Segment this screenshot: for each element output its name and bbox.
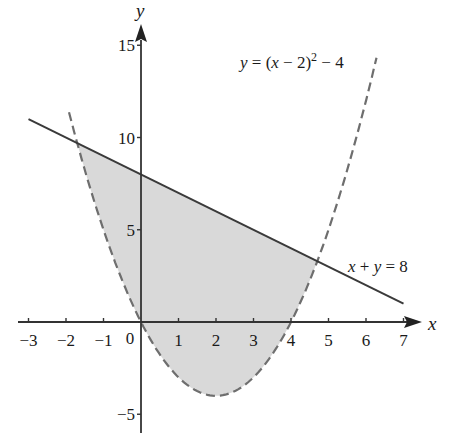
y-tick-label: 5 [127, 221, 136, 240]
chart-canvas: −3−2−112345670−551015 x y y = (x − 2)2 −… [0, 0, 449, 437]
x-tick-label: 7 [399, 331, 408, 350]
x-tick-label: 5 [324, 331, 333, 350]
shaded-region [77, 143, 317, 396]
x-tick-label: −2 [57, 331, 75, 350]
x-tick-label: −1 [94, 331, 112, 350]
x-axis-label: x [427, 313, 437, 334]
y-axis-label: y [134, 0, 145, 21]
x-tick-label: 6 [362, 331, 371, 350]
y-tick-label: 15 [118, 36, 135, 55]
x-tick-label: −3 [19, 331, 37, 350]
parabola-equation-label: y = (x − 2)2 − 4 [238, 50, 344, 72]
origin-label: 0 [126, 329, 135, 348]
line-equation-label: x + y = 8 [347, 257, 408, 276]
x-tick-label: 1 [174, 331, 183, 350]
feasible-region [77, 143, 317, 396]
x-tick-label: 3 [249, 331, 258, 350]
x-tick-label: 2 [212, 331, 221, 350]
y-axis-arrow-icon [135, 24, 147, 42]
y-tick-label: −5 [117, 405, 135, 424]
x-tick-label: 4 [287, 331, 296, 350]
y-tick-label: 10 [118, 129, 135, 148]
